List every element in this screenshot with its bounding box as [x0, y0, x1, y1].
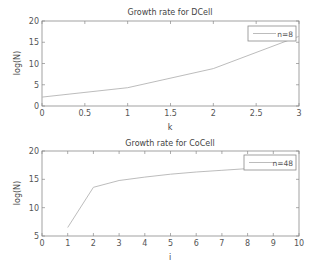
x-tick-label: 5: [168, 239, 173, 248]
chart-1: 00.511.522.5305101520n=8Growth rate for …: [13, 8, 302, 132]
x-tick-label: 4: [142, 239, 147, 248]
chart-2: 0123456789105101520n=48Growth rate for C…: [13, 139, 304, 262]
x-tick-label: 3: [296, 109, 301, 118]
chart-canvas: 00.511.522.5305101520n=8Growth rate for …: [0, 0, 315, 267]
y-axis-label: log(N): [13, 181, 22, 205]
x-tick-label: 1: [125, 109, 130, 118]
y-tick-label: 5: [34, 232, 39, 241]
x-tick-label: 8: [245, 239, 250, 248]
x-tick-label: 3: [117, 239, 122, 248]
legend-label: n=8: [277, 30, 293, 39]
y-tick-label: 5: [34, 81, 39, 90]
chart-title: Growth rate for CoCell: [125, 139, 214, 148]
legend: n=8: [248, 26, 296, 41]
y-tick-label: 20: [29, 17, 39, 26]
x-tick-label: 9: [271, 239, 276, 248]
x-axis-label: i: [169, 253, 171, 262]
x-tick-label: 1: [65, 239, 70, 248]
y-axis-label: log(N): [13, 51, 22, 75]
x-tick-label: 1.5: [164, 109, 177, 118]
x-tick-label: 7: [219, 239, 224, 248]
x-tick-label: 0: [39, 239, 44, 248]
y-tick-label: 15: [29, 38, 39, 47]
x-tick-label: 10: [294, 239, 304, 248]
y-tick-label: 10: [29, 204, 39, 213]
y-tick-label: 0: [34, 102, 39, 111]
x-tick-label: 2: [211, 109, 216, 118]
x-tick-label: 6: [194, 239, 199, 248]
x-tick-label: 2: [91, 239, 96, 248]
chart-title: Growth rate for DCell: [128, 8, 213, 17]
legend-label: n=48: [272, 159, 293, 168]
x-tick-label: 0: [39, 109, 44, 118]
y-tick-label: 10: [29, 60, 39, 69]
x-axis-label: k: [168, 123, 173, 132]
legend: n=48: [244, 155, 296, 170]
x-tick-label: 2.5: [250, 109, 263, 118]
y-tick-label: 20: [29, 147, 39, 156]
x-tick-label: 0.5: [78, 109, 91, 118]
y-tick-label: 15: [29, 175, 39, 184]
